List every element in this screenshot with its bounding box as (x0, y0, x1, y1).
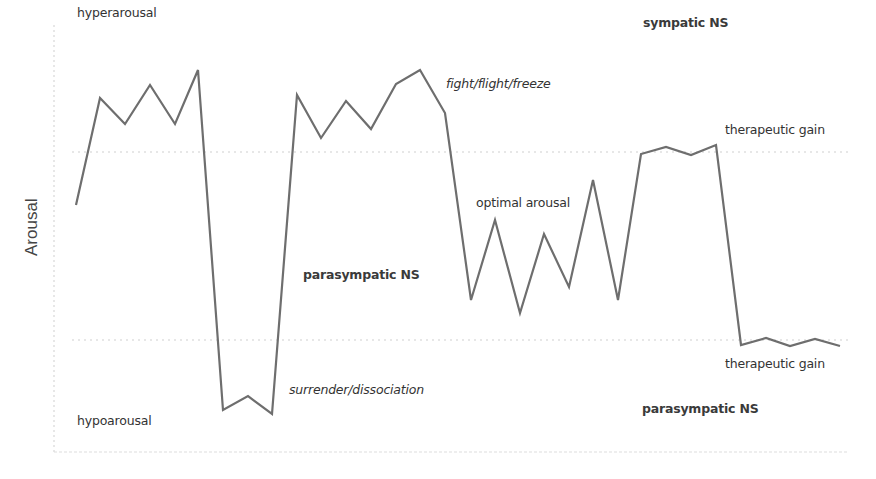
label-hyperarousal: hyperarousal (77, 5, 156, 20)
label-sympatic-ns: sympatic NS (643, 15, 728, 30)
label-therapeutic-gain-upper: therapeutic gain (725, 122, 825, 137)
label-parasympatic-ns-bottom: parasympatic NS (642, 401, 758, 416)
label-optimal-arousal: optimal arousal (476, 195, 570, 210)
reference-lines (72, 152, 848, 340)
label-therapeutic-gain-lower: therapeutic gain (725, 356, 825, 371)
label-parasympatic-ns-mid: parasympatic NS (303, 267, 419, 282)
y-axis-label: Arousal (22, 198, 42, 256)
label-surrender-dissociation: surrender/dissociation (289, 382, 424, 397)
label-fight-flight-freeze: fight/flight/freeze (446, 76, 551, 91)
label-hypoarousal: hypoarousal (77, 413, 151, 428)
